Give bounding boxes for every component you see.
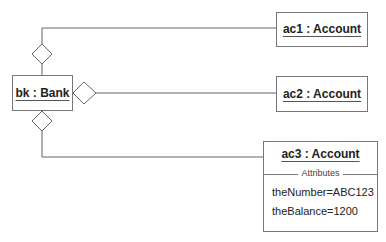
object-title: ac1 : Account	[277, 22, 367, 36]
object-ac3-account[interactable]: ac3 : Account Attributes theNumber=ABC12…	[263, 141, 378, 232]
compartment-label: Attributes	[264, 168, 377, 178]
object-ac2-account[interactable]: ac2 : Account	[276, 76, 368, 112]
object-title: bk : Bank	[13, 86, 72, 100]
aggregation-diamond-icon	[32, 111, 52, 131]
attribute-the-balance: theBalance=1200	[272, 205, 358, 217]
object-ac1-account[interactable]: ac1 : Account	[276, 12, 368, 47]
object-title: ac3 : Account	[264, 147, 377, 161]
link-bk-ac3	[42, 131, 263, 157]
link-bk-ac1	[42, 28, 276, 44]
compartment-title: Attributes	[298, 168, 342, 178]
attribute-the-number: theNumber=ABC123	[272, 186, 374, 198]
aggregation-diamond-icon	[73, 82, 96, 104]
aggregation-diamond-icon	[32, 44, 52, 64]
object-title: ac2 : Account	[277, 87, 367, 101]
object-bk-bank[interactable]: bk : Bank	[12, 75, 73, 111]
